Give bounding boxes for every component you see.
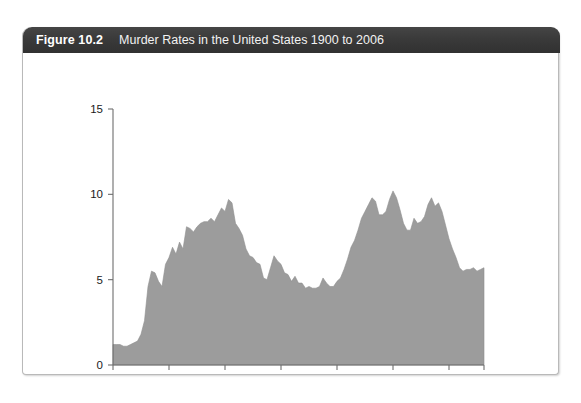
y-tick-label: 10: [90, 188, 103, 200]
y-tick-label: 0: [97, 359, 103, 371]
y-tick-label: 5: [97, 274, 103, 286]
chart-plot-area: 051015 19001916193219481964198019962006: [23, 53, 560, 374]
figure-title-label: Murder Rates in the United States 1900 t…: [119, 33, 384, 47]
area-series-group: [113, 191, 484, 365]
figure-card: Figure 10.2 Murder Rates in the United S…: [22, 27, 559, 375]
figure-header-bar: Figure 10.2 Murder Rates in the United S…: [23, 27, 560, 53]
figure-number-label: Figure 10.2: [36, 33, 103, 47]
y-axis-ticks: 051015: [90, 103, 113, 371]
x-axis-ticks: 19001916193219481964198019962006: [100, 365, 497, 374]
murder-rate-area-chart: 051015 19001916193219481964198019962006: [23, 53, 560, 374]
area-series-path: [113, 191, 484, 365]
y-tick-label: 15: [90, 103, 103, 115]
